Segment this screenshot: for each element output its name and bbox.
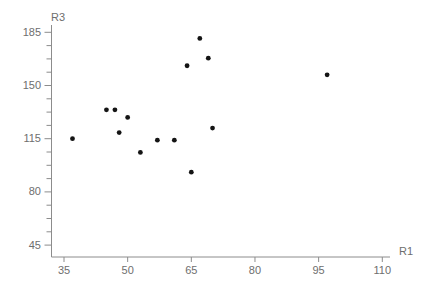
x-tick-label: 110 [374,264,392,276]
y-tick-label: 150 [23,79,41,91]
y-axis-title: R3 [51,11,65,23]
data-point [172,138,177,143]
data-point [70,136,75,141]
x-tick-label: 80 [249,264,261,276]
data-point [185,63,190,68]
y-tick-label: 115 [23,132,41,144]
data-point [104,107,109,112]
data-point [325,72,330,77]
data-point [155,138,160,143]
data-point [206,56,211,61]
scatter-chart: 35506580951104580115150185R3R1 [0,0,427,300]
data-point [210,126,215,131]
data-point [117,130,122,135]
x-axis-title: R1 [399,245,413,257]
scatter-plot-figure: 35506580951104580115150185R3R1 [0,0,427,300]
x-tick-label: 35 [58,264,70,276]
data-point [197,36,202,41]
x-tick-label: 95 [313,264,325,276]
data-point [138,150,143,155]
data-point [125,115,130,120]
x-tick-label: 50 [122,264,134,276]
y-tick-label: 80 [29,185,41,197]
y-tick-label: 185 [23,26,41,38]
data-point [189,170,194,175]
x-tick-label: 65 [185,264,197,276]
y-tick-label: 45 [29,239,41,251]
data-point [113,107,118,112]
